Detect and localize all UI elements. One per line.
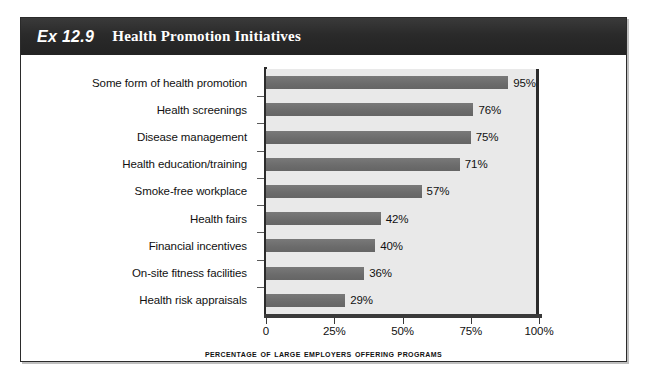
bar-row: 57% — [266, 178, 536, 205]
y-axis-tick — [257, 151, 264, 152]
bar-value-label: 71% — [465, 158, 488, 170]
y-axis-tick — [257, 260, 264, 261]
bar-value-label: 95% — [513, 77, 536, 89]
category-label: Smoke-free workplace — [21, 178, 257, 205]
category-label: Health screenings — [21, 96, 257, 123]
category-label: Health education/training — [21, 151, 257, 178]
x-axis-title: Percentage of Large Employers Offering P… — [21, 347, 626, 359]
y-axis-tick — [257, 178, 264, 179]
x-axis-tick-label: 0 — [263, 325, 269, 337]
bar-row: 95% — [266, 69, 536, 96]
bar-value-label: 76% — [478, 104, 501, 116]
exhibit-title: Health Promotion Initiatives — [112, 28, 301, 45]
x-axis-tick-label: 50% — [391, 325, 414, 337]
category-label: Health risk appraisals — [21, 287, 257, 314]
category-label: Some form of health promotion — [21, 69, 257, 96]
bar — [266, 212, 381, 225]
y-axis-tick — [257, 287, 264, 288]
bar — [266, 131, 471, 144]
bar-value-label: 42% — [386, 213, 409, 225]
bar-row: 29% — [266, 287, 536, 314]
x-axis-tick — [334, 318, 335, 324]
x-axis: 025%50%75%100% — [266, 318, 539, 342]
x-axis-tick — [403, 318, 404, 324]
chart-body: Some form of health promotionHealth scre… — [21, 55, 626, 363]
exhibit-number: Ex 12.9 — [37, 28, 94, 46]
bar-row: 76% — [266, 96, 536, 123]
y-axis-tick — [257, 123, 264, 124]
y-axis-tick — [257, 232, 264, 233]
category-label: On-site fitness facilities — [21, 260, 257, 287]
x-axis-tick — [266, 318, 267, 324]
y-axis-tick — [257, 205, 264, 206]
plot-area: 95%76%75%71%57%42%40%36%29% — [266, 69, 539, 314]
exhibit-header: Ex 12.9 Health Promotion Initiatives — [21, 18, 626, 55]
bar-value-label: 36% — [369, 267, 392, 279]
x-axis-tick-label: 75% — [459, 325, 482, 337]
bar-row: 71% — [266, 151, 536, 178]
bar — [266, 267, 364, 280]
bar — [266, 103, 473, 116]
bar-value-label: 40% — [380, 240, 403, 252]
category-label: Health fairs — [21, 205, 257, 232]
category-axis: Some form of health promotionHealth scre… — [21, 69, 257, 314]
category-label: Disease management — [21, 123, 257, 150]
y-axis-tick — [257, 96, 264, 97]
bar-row: 36% — [266, 260, 536, 287]
x-axis-tick-label: 100% — [524, 325, 553, 337]
bar-row: 75% — [266, 123, 536, 150]
x-axis-tick-label: 25% — [323, 325, 346, 337]
x-axis-tick — [471, 318, 472, 324]
bar — [266, 185, 422, 198]
x-axis-tick — [539, 318, 540, 324]
bar-value-label: 57% — [427, 185, 450, 197]
bar-value-label: 29% — [350, 294, 373, 306]
bar — [266, 239, 375, 252]
bar — [266, 158, 460, 171]
bar — [266, 76, 508, 89]
bar — [266, 294, 345, 307]
bar-row: 40% — [266, 232, 536, 259]
bar-series: 95%76%75%71%57%42%40%36%29% — [266, 69, 536, 314]
bar-row: 42% — [266, 205, 536, 232]
bar-value-label: 75% — [476, 131, 499, 143]
category-label: Financial incentives — [21, 232, 257, 259]
exhibit-container: Ex 12.9 Health Promotion Initiatives Som… — [20, 17, 627, 362]
